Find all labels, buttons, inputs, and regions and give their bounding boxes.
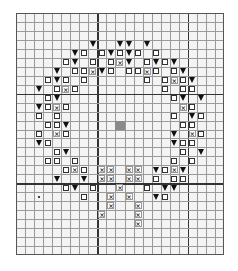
chart-cell bbox=[170, 183, 179, 192]
chart-cell bbox=[52, 76, 61, 85]
cross-symbol-icon: × bbox=[71, 166, 78, 173]
grid-line-horizontal bbox=[16, 67, 224, 68]
chart-cell bbox=[70, 49, 79, 58]
chart-cell bbox=[143, 183, 152, 192]
triangle-symbol-icon bbox=[171, 140, 177, 146]
square-symbol-icon bbox=[45, 158, 51, 164]
chart-cell bbox=[61, 76, 70, 85]
chart-cell bbox=[43, 94, 52, 103]
chart-cell bbox=[97, 67, 106, 76]
chart-cell bbox=[152, 192, 161, 201]
cross-symbol-icon: × bbox=[98, 175, 105, 182]
triangle-symbol-icon bbox=[90, 41, 96, 47]
square-symbol-icon bbox=[108, 59, 114, 65]
chart-cell bbox=[125, 40, 134, 49]
chart-cell bbox=[188, 85, 197, 94]
square-symbol-icon bbox=[153, 50, 159, 56]
triangle-symbol-icon bbox=[171, 131, 177, 137]
square-symbol-icon bbox=[189, 104, 195, 110]
triangle-symbol-icon bbox=[99, 68, 105, 74]
chart-cell bbox=[43, 103, 52, 112]
square-symbol-icon bbox=[81, 50, 87, 56]
grid-line-horizontal bbox=[16, 246, 224, 247]
triangle-symbol-icon bbox=[72, 185, 78, 191]
square-symbol-icon bbox=[63, 185, 69, 191]
square-symbol-icon bbox=[63, 167, 69, 173]
triangle-symbol-icon bbox=[108, 50, 114, 56]
triangle-symbol-icon bbox=[36, 104, 42, 110]
square-symbol-icon bbox=[171, 68, 177, 74]
cross-symbol-icon: × bbox=[107, 175, 114, 182]
triangle-symbol-icon bbox=[189, 77, 195, 83]
triangle-symbol-icon bbox=[36, 86, 42, 92]
chart-cell bbox=[134, 49, 143, 58]
chart-cell bbox=[52, 147, 61, 156]
chart-cell bbox=[52, 67, 61, 76]
triangle-symbol-icon bbox=[153, 194, 159, 200]
chart-cell bbox=[34, 192, 43, 201]
chart-cell: × bbox=[134, 219, 143, 228]
chart-cell bbox=[52, 121, 61, 130]
chart-cell bbox=[170, 174, 179, 183]
chart-cell: × bbox=[134, 174, 143, 183]
cross-symbol-icon: × bbox=[189, 130, 196, 137]
square-symbol-icon bbox=[189, 122, 195, 128]
chart-cell bbox=[106, 49, 115, 58]
grid-line-horizontal bbox=[16, 201, 224, 202]
triangle-symbol-icon bbox=[126, 59, 132, 65]
square-symbol-icon bbox=[171, 95, 177, 101]
grid-line-horizontal bbox=[16, 237, 224, 238]
chart-cell bbox=[161, 85, 170, 94]
triangle-symbol-icon bbox=[54, 68, 60, 74]
chart-cell bbox=[143, 58, 152, 67]
cross-symbol-icon: × bbox=[107, 202, 114, 209]
square-symbol-icon bbox=[126, 68, 132, 74]
square-symbol-icon bbox=[90, 59, 96, 65]
triangle-symbol-icon bbox=[198, 95, 204, 101]
chart-cell bbox=[52, 112, 61, 121]
square-symbol-icon bbox=[144, 77, 150, 83]
chart-cell: × bbox=[115, 183, 124, 192]
chart-cell bbox=[125, 49, 134, 58]
chart-cell: × bbox=[88, 67, 97, 76]
chart-cell: × bbox=[106, 201, 115, 210]
grid-line-horizontal bbox=[16, 174, 224, 175]
chart-cell: × bbox=[179, 103, 188, 112]
triangle-symbol-icon bbox=[54, 176, 60, 182]
square-symbol-icon bbox=[54, 122, 60, 128]
chart-cell: × bbox=[97, 210, 106, 219]
grid-line-horizontal bbox=[16, 228, 224, 229]
chart-cell bbox=[34, 130, 43, 139]
triangle-symbol-icon bbox=[198, 149, 204, 155]
square-symbol-icon bbox=[162, 86, 168, 92]
chart-cell: × bbox=[188, 130, 197, 139]
triangle-symbol-icon bbox=[153, 167, 159, 173]
triangle-symbol-icon bbox=[171, 185, 177, 191]
square-symbol-icon bbox=[189, 140, 195, 146]
chart-cell: × bbox=[70, 165, 79, 174]
chart-cell bbox=[97, 49, 106, 58]
chart-cell bbox=[179, 85, 188, 94]
chart-cell bbox=[170, 112, 179, 121]
square-symbol-icon bbox=[90, 185, 96, 191]
chart-cell bbox=[179, 147, 188, 156]
chart-cell: × bbox=[170, 165, 179, 174]
square-symbol-icon bbox=[99, 50, 105, 56]
chart-cell bbox=[170, 94, 179, 103]
chart-cell bbox=[134, 67, 143, 76]
square-symbol-icon bbox=[198, 113, 204, 119]
chart-cell bbox=[197, 94, 206, 103]
chart-cell: × bbox=[125, 174, 134, 183]
triangle-symbol-icon bbox=[54, 95, 60, 101]
chart-cell: × bbox=[125, 165, 134, 174]
triangle-symbol-icon bbox=[63, 122, 69, 128]
chart-cell bbox=[179, 67, 188, 76]
square-symbol-icon bbox=[54, 158, 60, 164]
cross-symbol-icon: × bbox=[98, 166, 105, 173]
grid-line-horizontal bbox=[16, 22, 224, 23]
cross-symbol-icon: × bbox=[107, 193, 114, 200]
chart-cell bbox=[34, 112, 43, 121]
chart-cell: × bbox=[143, 67, 152, 76]
chart-cell bbox=[52, 156, 61, 165]
chart-cell bbox=[170, 67, 179, 76]
